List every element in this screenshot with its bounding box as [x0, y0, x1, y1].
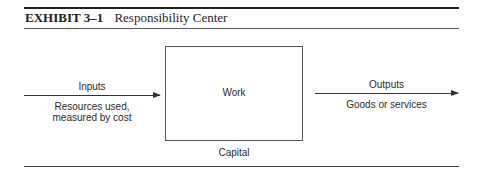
work-label: Work	[166, 87, 302, 98]
work-box: Work	[165, 46, 303, 141]
inputs-label: Inputs	[24, 81, 160, 92]
exhibit-heading: EXHIBIT 3–1 Responsibility Center	[25, 10, 227, 26]
inputs-description-line1: Resources used,	[24, 101, 160, 112]
exhibit-title: Responsibility Center	[114, 10, 227, 25]
inputs-description: Resources used, measured by cost	[24, 101, 160, 123]
bottom-rule	[24, 166, 459, 167]
inputs-description-line2: measured by cost	[24, 112, 160, 123]
capital-label: Capital	[165, 147, 303, 158]
top-rule	[24, 7, 459, 9]
outputs-arrow-icon	[315, 93, 458, 94]
exhibit-number: EXHIBIT 3–1	[25, 10, 103, 25]
title-rule	[24, 28, 459, 29]
inputs-arrow-icon	[24, 95, 160, 96]
outputs-label: Outputs	[315, 79, 458, 90]
outputs-description: Goods or services	[315, 99, 458, 110]
